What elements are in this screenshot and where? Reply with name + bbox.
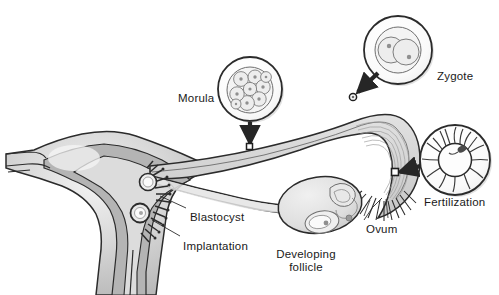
released-ovum — [346, 215, 352, 221]
zygote-inset — [349, 16, 434, 101]
oocyte — [324, 221, 329, 226]
female-pronucleus-dot — [407, 55, 411, 59]
blastocyst-cavity — [143, 177, 153, 187]
label-ovum: Ovum — [366, 223, 397, 236]
label-zygote: Zygote — [437, 70, 473, 83]
fertilization-site — [392, 169, 399, 176]
corpus-luteum — [330, 183, 355, 206]
inner-cell-mass — [139, 211, 143, 215]
male-pronucleus-dot — [387, 44, 391, 48]
zygote-in-tube-dot — [352, 96, 355, 99]
label-fertilization: Fertilization — [424, 196, 485, 209]
uterus — [6, 131, 214, 295]
uterus-highlight — [48, 145, 100, 171]
morula-inset — [218, 57, 284, 150]
ovum-cell — [439, 144, 472, 177]
label-developing-follicle: Developing follicle — [266, 248, 346, 273]
label-morula: Morula — [178, 92, 214, 105]
female-pronucleus — [393, 39, 419, 65]
morula-in-tube — [247, 144, 253, 150]
zygote-arrow — [358, 73, 378, 92]
ovary — [275, 171, 366, 238]
label-implantation: Implantation — [183, 240, 248, 253]
anatomical-illustration — [0, 0, 499, 295]
label-blastocyst: Blastocyst — [190, 211, 244, 224]
figure-canvas: Morula Zygote Fertilization Blastocyst I… — [0, 0, 499, 295]
